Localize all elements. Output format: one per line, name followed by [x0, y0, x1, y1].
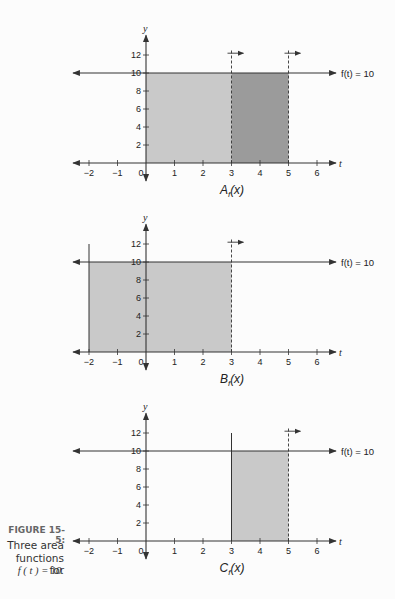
caption-line-3: f ( t ) = 10. [0, 565, 64, 576]
shaded-area [232, 451, 289, 541]
x-tick-label: 4 [257, 168, 262, 178]
t-axis-label: t [339, 347, 342, 358]
y-tick-label: 12 [131, 50, 141, 60]
y-tick-label: 6 [136, 104, 141, 114]
t-axis-label: t [339, 536, 342, 547]
figure-canvas: f(t) = 10ty−2−1012345624681012Af(x)f(t) … [0, 0, 395, 599]
y-tick-label: 10 [131, 68, 141, 78]
panel-title: Cf(x) [220, 561, 245, 577]
x-tick-label: 2 [200, 546, 205, 556]
x-tick-label: 6 [314, 168, 319, 178]
y-axis-label: y [142, 212, 148, 223]
x-tick-label: 6 [314, 357, 319, 367]
y-tick-label: 12 [131, 239, 141, 249]
function-label: f(t) = 10 [341, 257, 374, 268]
x-tick-label: 6 [314, 546, 319, 556]
x-tick-label: 3 [229, 168, 234, 178]
x-tick-label: 1 [172, 168, 177, 178]
x-tick-label: 2 [200, 168, 205, 178]
caption-line-1: Three area [0, 539, 64, 551]
y-tick-label: 6 [136, 293, 141, 303]
y-tick-label: 10 [131, 446, 141, 456]
y-tick-label: 4 [136, 500, 141, 510]
y-tick-label: 2 [136, 140, 141, 150]
x-tick-label: −1 [112, 357, 122, 367]
x-tick-label: −2 [84, 357, 94, 367]
x-tick-label: −2 [84, 168, 94, 178]
x-tick-label: −1 [112, 168, 122, 178]
panel-title: Af(x) [219, 183, 244, 199]
y-tick-label: 6 [136, 482, 141, 492]
x-tick-label: 1 [172, 546, 177, 556]
chart-panel-2: f(t) = 10ty−2−1012345624681012Bf(x) [73, 212, 374, 388]
y-tick-label: 4 [136, 122, 141, 132]
x-tick-label: −1 [112, 546, 122, 556]
y-axis-label: y [142, 401, 148, 412]
x-tick-label: 5 [286, 357, 291, 367]
x-tick-label: 3 [229, 546, 234, 556]
y-tick-label: 2 [136, 518, 141, 528]
x-tick-label: 2 [200, 357, 205, 367]
y-tick-label: 4 [136, 311, 141, 321]
x-tick-label: 1 [172, 357, 177, 367]
x-tick-label: 4 [257, 546, 262, 556]
x-tick-label: 4 [257, 357, 262, 367]
x-tick-label: 3 [229, 357, 234, 367]
chart-panel-1: f(t) = 10ty−2−1012345624681012Af(x) [73, 23, 374, 199]
shaded-area [146, 73, 232, 163]
y-tick-label: 12 [131, 428, 141, 438]
panel-title: Bf(x) [220, 372, 244, 388]
y-tick-label: 2 [136, 329, 141, 339]
chart-panel-3: f(t) = 10ty−2−1012345624681012Cf(x) [73, 401, 374, 577]
x-tick-label: 0 [138, 357, 143, 367]
y-tick-label: 8 [136, 86, 141, 96]
shaded-area [232, 73, 289, 163]
y-tick-label: 10 [131, 257, 141, 267]
shaded-area [89, 262, 232, 352]
function-label: f(t) = 10 [341, 446, 374, 457]
y-tick-label: 8 [136, 275, 141, 285]
x-tick-label: 5 [286, 168, 291, 178]
y-tick-label: 8 [136, 464, 141, 474]
x-tick-label: −2 [84, 546, 94, 556]
x-tick-label: 0 [138, 168, 143, 178]
function-label: f(t) = 10 [341, 68, 374, 79]
x-tick-label: 5 [286, 546, 291, 556]
x-tick-label: 0 [138, 546, 143, 556]
y-axis-label: y [142, 23, 148, 34]
t-axis-label: t [339, 158, 342, 169]
